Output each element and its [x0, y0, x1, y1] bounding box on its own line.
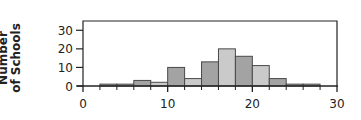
histogram-bar	[202, 62, 219, 86]
histogram-bar	[235, 56, 252, 86]
y-tick-label: 20	[58, 42, 73, 56]
histogram-bar	[134, 80, 151, 86]
histogram-chart: 01020300102030	[0, 0, 361, 120]
y-tick-label: 30	[58, 24, 73, 38]
y-tick-label: 10	[58, 61, 73, 75]
histogram-bar	[168, 67, 185, 86]
histogram-bar	[218, 49, 235, 86]
x-tick-label: 30	[329, 97, 344, 111]
histogram-bar	[269, 79, 286, 86]
x-tick-label: 20	[245, 97, 260, 111]
histogram-bar	[185, 79, 202, 86]
histogram-bars	[100, 49, 320, 86]
x-tick-label: 10	[160, 97, 175, 111]
x-tick-label: 0	[79, 97, 87, 111]
y-tick-label: 0	[65, 80, 73, 94]
histogram-bar	[252, 66, 269, 86]
